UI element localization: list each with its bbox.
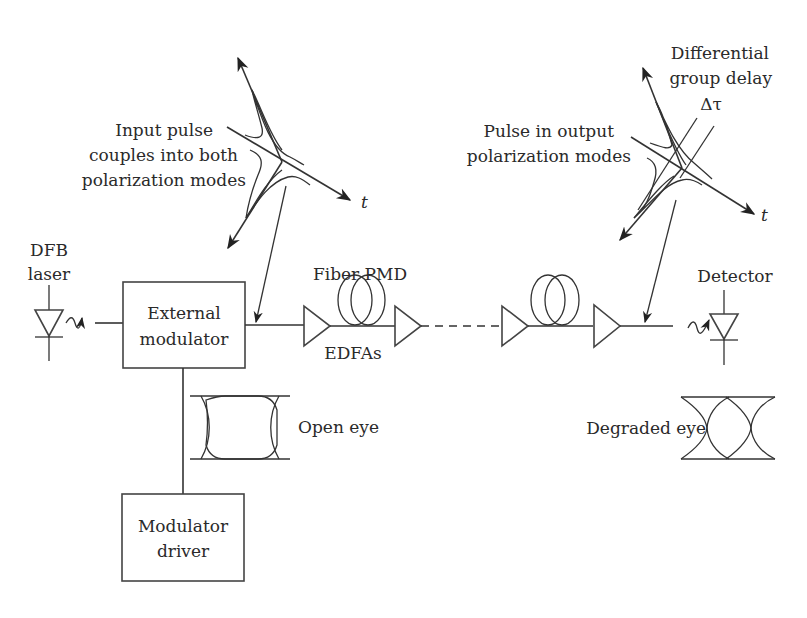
output-pulse-label-1: Pulse in output xyxy=(484,121,615,141)
time-axis-label: t xyxy=(761,205,768,225)
edfa-amplifier-icon xyxy=(304,306,330,346)
edfas-label: EDFAs xyxy=(324,343,381,363)
open-eye-label: Open eye xyxy=(298,417,379,437)
fiber-pmd-label: Fiber PMD xyxy=(313,264,407,284)
modulator-driver-label-2: driver xyxy=(157,541,210,561)
axis-arrow-down-icon xyxy=(620,168,682,240)
fiber-spool-icon xyxy=(531,275,579,325)
dgd-label-2: group delay xyxy=(669,68,772,88)
edfa-amplifier-icon xyxy=(594,305,620,347)
dfb-laser-label-1: DFB xyxy=(30,240,68,260)
pmd-diagram: t Input pulse couples into both polariza… xyxy=(0,0,807,618)
external-modulator-label-2: modulator xyxy=(140,329,230,349)
open-eye-diagram-icon xyxy=(190,396,290,459)
degraded-eye-label: Degraded eye xyxy=(586,418,706,438)
output-pulse-label-2: polarization modes xyxy=(467,146,631,166)
dgd-label-1: Differential xyxy=(671,43,769,63)
input-pulse-label-1: Input pulse xyxy=(115,120,213,140)
edfa-amplifier-icon xyxy=(395,306,421,346)
external-modulator-box xyxy=(123,282,245,368)
photodiode-icon xyxy=(688,290,738,365)
input-pulse-label-3: polarization modes xyxy=(82,170,246,190)
pointer-arrow-icon xyxy=(645,200,676,322)
dfb-laser-label-2: laser xyxy=(28,264,71,284)
pointer-arrow-icon xyxy=(256,186,286,322)
modulator-driver-label-1: Modulator xyxy=(138,516,229,536)
modulator-driver-box xyxy=(122,494,244,581)
detector-label: Detector xyxy=(697,266,773,286)
laser-diode-icon xyxy=(35,285,82,361)
edfa-amplifier-icon xyxy=(502,306,528,346)
external-modulator-label-1: External xyxy=(147,303,221,323)
time-axis-label: t xyxy=(361,192,368,212)
dgd-symbol: Δτ xyxy=(700,94,722,114)
input-pulse-label-2: couples into both xyxy=(89,145,238,165)
